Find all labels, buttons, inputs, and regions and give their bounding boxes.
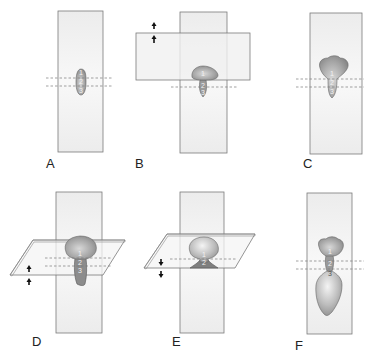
region-number: 2 — [79, 78, 83, 85]
region-number: 2 — [201, 82, 205, 89]
region-number: 3 — [78, 267, 82, 274]
region-number: 1 — [78, 250, 82, 257]
region-number: 3 — [79, 87, 83, 94]
panel-label: D — [32, 334, 41, 349]
region-number: 3 — [328, 270, 332, 277]
region-number: 1 — [201, 70, 205, 77]
figure-canvas: 1 2 3 A 1 2 3 B 1 2 3 C — [0, 0, 371, 354]
panel-label: A — [46, 156, 55, 171]
arrow-up-icon — [27, 278, 32, 285]
panel-label: E — [172, 334, 181, 349]
region-number: 1 — [328, 248, 332, 255]
region-number: 3 — [201, 89, 205, 96]
region-number: 1 — [202, 251, 206, 258]
region-number: 2 — [328, 260, 332, 267]
region-number: 1 — [79, 69, 83, 76]
panel-a: 1 2 3 A — [46, 11, 112, 171]
panel-b: 1 2 3 B — [135, 12, 250, 171]
panel-label: F — [295, 338, 303, 353]
panel-c: 1 2 3 C — [296, 13, 364, 171]
region-number: 3 — [330, 88, 334, 95]
panel-e: 1 2 E — [144, 192, 255, 349]
panel-label: C — [303, 156, 312, 171]
region-number: 1 — [330, 70, 334, 77]
region-number: 2 — [330, 79, 334, 86]
region-number: 2 — [78, 259, 82, 266]
arrow-down-icon — [159, 271, 164, 278]
arrow-up-icon — [152, 22, 157, 29]
panel-label: B — [135, 156, 144, 171]
panel-f: 1 2 3 F — [295, 193, 364, 353]
panel-d: 1 2 3 D — [10, 192, 125, 349]
region-number: 2 — [202, 259, 206, 266]
